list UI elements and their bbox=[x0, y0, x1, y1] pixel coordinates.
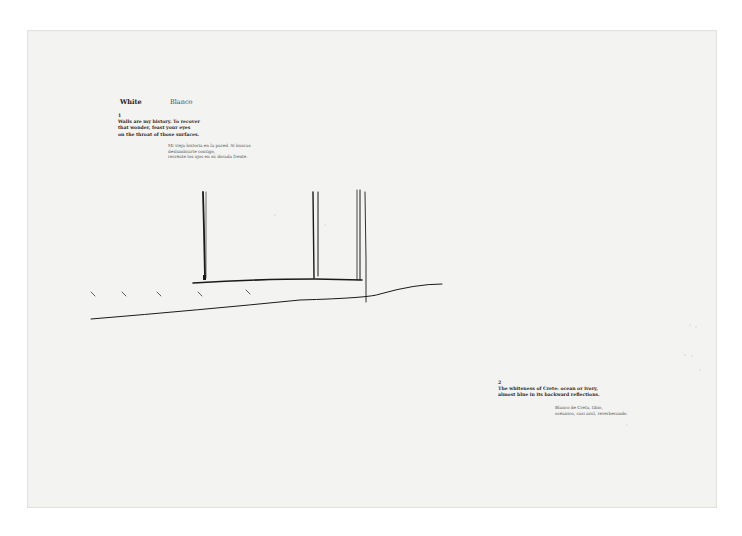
pen-sketch bbox=[0, 0, 742, 536]
text-line: océanico, casi azul, reverberando. bbox=[555, 411, 675, 417]
entry-2-spanish: Blanco de Creta, tibio, océanico, casi a… bbox=[555, 405, 675, 416]
text-line: almost blue in its backward reflections. bbox=[498, 392, 648, 398]
entry-2-english: 2 The whiteness of Crete: ocean or ivory… bbox=[498, 380, 648, 399]
